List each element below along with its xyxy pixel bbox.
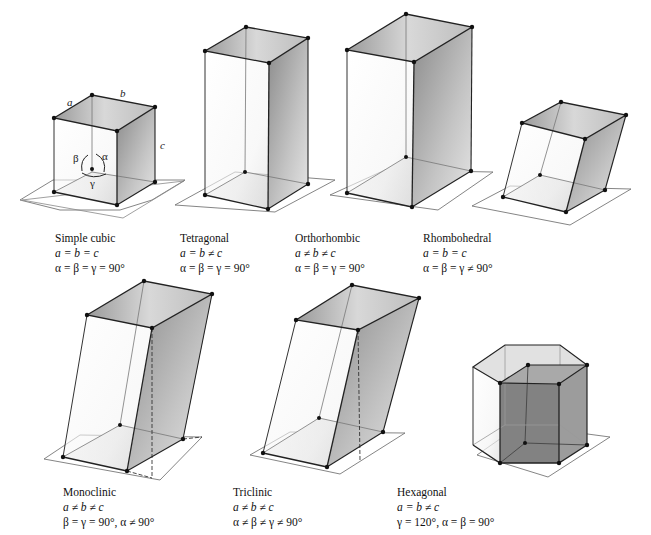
angle-relation: γ = 120°, α = β = 90° xyxy=(397,515,494,530)
system-name: Tetragonal xyxy=(180,231,250,246)
angle-relation: α = β = γ = 90° xyxy=(295,261,365,276)
label-a: a xyxy=(67,96,73,108)
system-name: Simple cubic xyxy=(55,231,125,246)
angle-relation: α = β = γ = 90° xyxy=(55,261,125,276)
angle-relation: α = β = γ ≠ 90° xyxy=(423,261,493,276)
caption-hexagonal: Hexagonal a = b ≠ c γ = 120°, α = β = 90… xyxy=(397,485,494,530)
system-name: Hexagonal xyxy=(397,485,494,500)
axes-relation: a = b = c xyxy=(55,246,125,261)
orthorhombic-cell xyxy=(330,12,493,210)
system-name: Monoclinic xyxy=(63,485,154,500)
axes-relation: a = b = c xyxy=(423,246,493,261)
caption-simple-cubic: Simple cubic a = b = c α = β = γ = 90° xyxy=(55,231,125,276)
axes-relation: a = b ≠ c xyxy=(397,500,494,515)
axes-relation: a = b ≠ c xyxy=(180,246,250,261)
caption-orthorhombic: Orthorhombic a ≠ b ≠ c α = β = γ = 90° xyxy=(295,231,365,276)
caption-monoclinic: Monoclinic a ≠ b ≠ c β = γ = 90°, α ≠ 90… xyxy=(63,485,154,530)
axes-relation: a ≠ b ≠ c xyxy=(295,246,365,261)
rhombohedral-cell xyxy=(472,100,631,225)
label-alpha: α xyxy=(102,150,108,162)
angle-relation: α = β = γ = 90° xyxy=(180,261,250,276)
caption-rhombohedral: Rhombohedral a = b = c α = β = γ ≠ 90° xyxy=(423,231,493,276)
system-name: Triclinic xyxy=(233,485,302,500)
label-gamma: γ xyxy=(89,177,95,189)
angle-relation: α ≠ β ≠ γ ≠ 90° xyxy=(233,515,302,530)
triclinic-cell xyxy=(250,283,421,474)
axes-relation: a ≠ b ≠ c xyxy=(233,500,302,515)
angle-relation: β = γ = 90°, α ≠ 90° xyxy=(63,515,154,530)
caption-triclinic: Triclinic a ≠ b ≠ c α ≠ β ≠ γ ≠ 90° xyxy=(233,485,302,530)
label-b: b xyxy=(120,87,126,99)
axes-relation: a ≠ b ≠ c xyxy=(63,500,154,515)
label-c: c xyxy=(160,139,165,151)
monoclinic-cell xyxy=(44,279,214,480)
hexagonal-cell xyxy=(473,345,610,477)
label-beta: β xyxy=(73,152,79,164)
simple-cubic-cell: a b c α β γ xyxy=(20,87,185,218)
system-name: Rhombohedral xyxy=(423,231,493,246)
system-name: Orthorhombic xyxy=(295,231,365,246)
caption-tetragonal: Tetragonal a = b ≠ c α = β = γ = 90° xyxy=(180,231,250,276)
tetragonal-cell xyxy=(175,25,335,212)
